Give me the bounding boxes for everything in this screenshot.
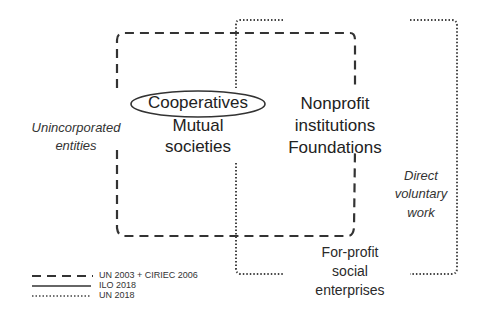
social-label: social: [300, 263, 400, 280]
societies-label: societies: [131, 137, 265, 157]
legend-dotted-label: UN 2018: [99, 291, 135, 300]
work-label: work: [386, 205, 456, 221]
entities-label: entities: [18, 138, 134, 154]
direct-label: Direct: [386, 168, 456, 184]
nonprofit-label: Nonprofit: [280, 94, 390, 114]
legend-dashed-label: UN 2003 + CIRIEC 2006: [99, 271, 198, 280]
diagram-lines: [0, 0, 482, 317]
foundations-label: Foundations: [280, 138, 390, 158]
institutions-label: institutions: [280, 116, 390, 136]
mutual-label: Mutual: [131, 116, 265, 136]
unincorporated-label: Unincorporated: [18, 120, 134, 136]
voluntary-label: voluntary: [386, 186, 456, 202]
legend-solid-label: ILO 2018: [99, 281, 136, 290]
for-profit-label: For-profit: [300, 244, 400, 261]
enterprises-label: enterprises: [300, 282, 400, 299]
cooperatives-label: Cooperatives: [131, 93, 265, 113]
